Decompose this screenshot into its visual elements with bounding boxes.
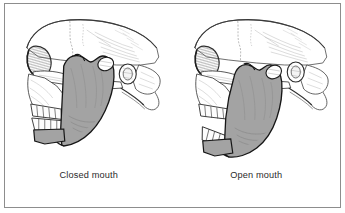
caption-closed-mouth: Closed mouth bbox=[5, 170, 187, 180]
illustration-closed-mouth bbox=[5, 8, 173, 166]
caption-open-mouth: Open mouth bbox=[173, 170, 345, 180]
external-auditory-meatus-open bbox=[287, 62, 304, 82]
external-auditory-meatus-closed bbox=[119, 64, 136, 84]
panel-closed-mouth: Closed mouth bbox=[5, 4, 173, 207]
mastoid-process-open bbox=[300, 65, 327, 110]
illustration-open-mouth bbox=[173, 8, 341, 166]
panel-open-mouth: Open mouth bbox=[173, 4, 341, 207]
mandible-body-closed bbox=[34, 129, 65, 144]
mandible-body-open bbox=[202, 139, 232, 156]
panel-container: Closed mouth bbox=[5, 4, 340, 207]
mastoid-process-closed bbox=[133, 65, 160, 110]
figure-temporomandibular-joint: Closed mouth bbox=[0, 0, 345, 213]
